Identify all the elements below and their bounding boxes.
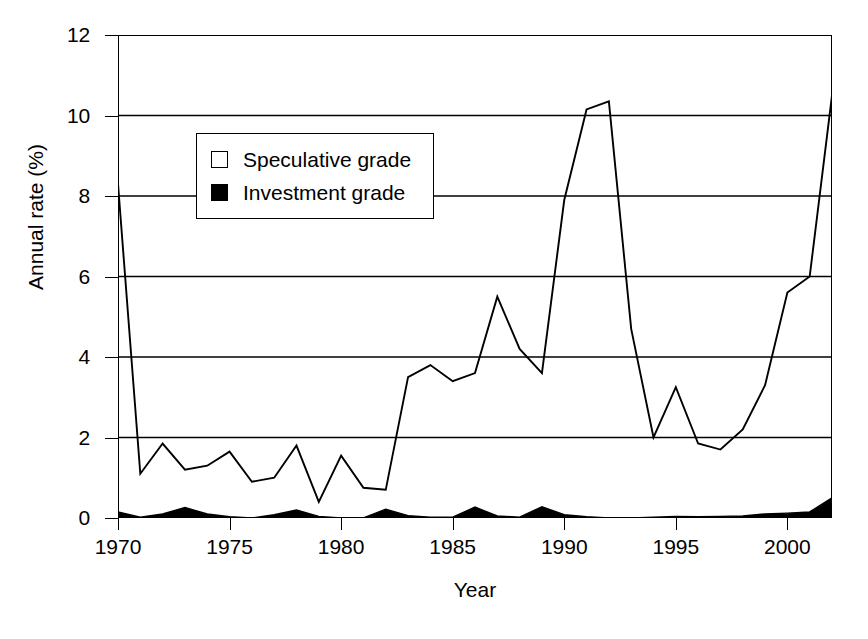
y-axis: 024681012 (0, 0, 118, 553)
y-tick-mark-10 (105, 116, 118, 117)
x-tick-label-1970: 1970 (95, 536, 142, 557)
y-tick-label-6: 6 (79, 266, 90, 287)
plot-area (118, 35, 832, 518)
x-tick-mark-1975 (230, 518, 231, 530)
y-tick-mark-4 (105, 357, 118, 358)
chart-figure: 024681012 Annual rate (%) Speculative gr… (0, 0, 868, 639)
y-tick-label-12: 12 (67, 24, 90, 45)
x-tick-mark-1980 (341, 518, 342, 530)
chart-canvas (118, 35, 832, 518)
x-tick-mark-1970 (118, 518, 119, 530)
y-axis-title: Annual rate (%) (24, 117, 48, 317)
x-tick-label-2000: 2000 (764, 536, 811, 557)
x-tick-mark-1985 (453, 518, 454, 530)
hollow-square-icon (211, 151, 228, 168)
x-tick-label-1975: 1975 (206, 536, 253, 557)
x-tick-mark-2000 (787, 518, 788, 530)
x-axis: 1970197519801985199019952000 (118, 518, 832, 578)
y-tick-label-10: 10 (67, 105, 90, 126)
x-tick-label-1990: 1990 (541, 536, 588, 557)
x-axis-title: Year (118, 578, 832, 602)
x-tick-label-1985: 1985 (429, 536, 476, 557)
legend-item-investment-grade: Investment grade (211, 176, 411, 209)
y-tick-label-0: 0 (79, 507, 90, 528)
y-tick-mark-12 (105, 35, 118, 36)
x-tick-mark-1995 (676, 518, 677, 530)
legend-label-speculative-grade: Speculative grade (243, 149, 411, 170)
y-tick-mark-8 (105, 196, 118, 197)
y-tick-label-4: 4 (79, 346, 90, 367)
y-tick-mark-6 (105, 277, 118, 278)
x-tick-label-1980: 1980 (318, 536, 365, 557)
series-investment-grade (118, 498, 832, 518)
y-tick-mark-2 (105, 438, 118, 439)
investment-grade-area (118, 498, 832, 518)
filled-square-icon (211, 184, 228, 201)
legend-label-investment-grade: Investment grade (243, 182, 405, 203)
y-tick-label-2: 2 (79, 427, 90, 448)
legend-item-speculative-grade: Speculative grade (211, 143, 411, 176)
x-tick-label-1995: 1995 (652, 536, 699, 557)
y-tick-label-8: 8 (79, 185, 90, 206)
x-tick-mark-1990 (564, 518, 565, 530)
chart-legend: Speculative grade Investment grade (196, 133, 434, 219)
y-tick-mark-0 (105, 518, 118, 519)
